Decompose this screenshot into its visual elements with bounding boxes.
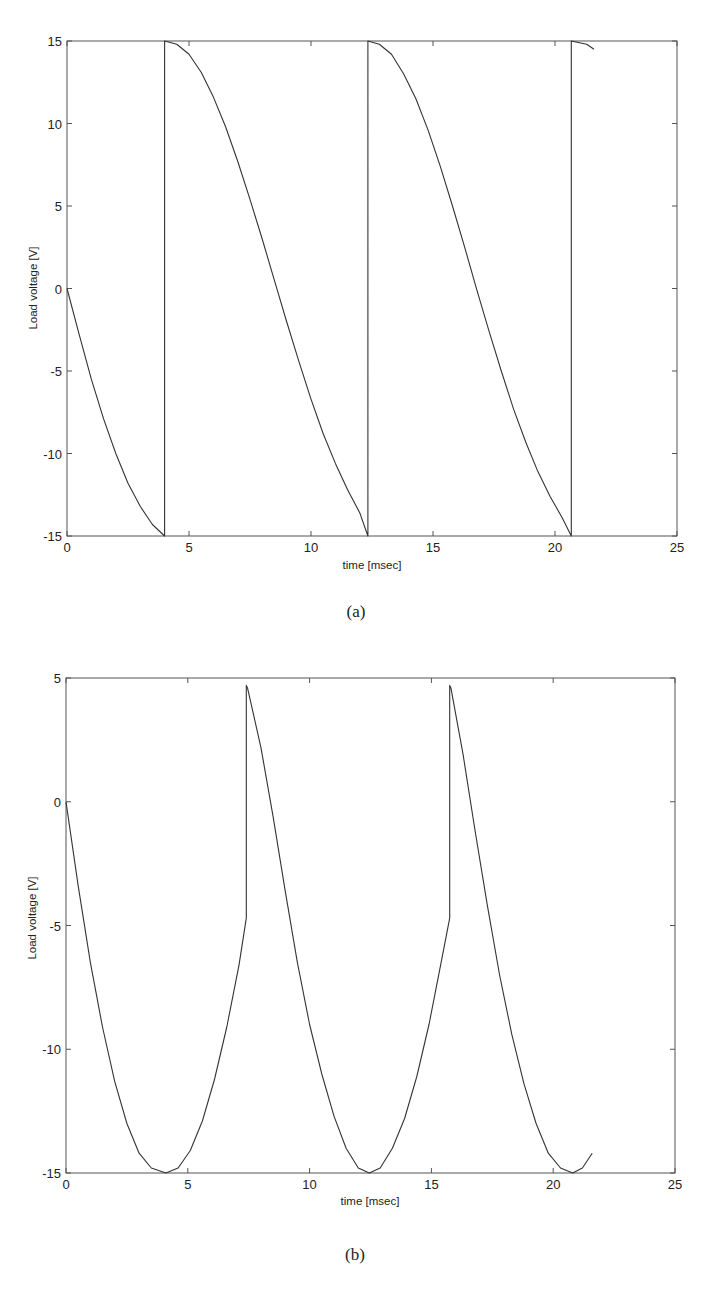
chart-a-series <box>67 41 594 536</box>
chart-b-x-tick-label: 25 <box>668 1177 682 1192</box>
chart-a-x-tick-label: 0 <box>63 540 70 555</box>
chart-a-y-tick-label: -5 <box>50 364 62 379</box>
chart-a-x-tick-label: 20 <box>548 540 562 555</box>
chart-b-y-tick-label: -5 <box>49 919 61 934</box>
chart-a-y-ticks: -15-10-5051015 <box>43 34 677 544</box>
chart-a-x-tick-label: 15 <box>426 540 440 555</box>
chart-a-y-tick-label: 5 <box>55 199 62 214</box>
chart-a-y-tick-label: 0 <box>55 282 62 297</box>
chart-b-y-ticks: -15-10-505 <box>42 671 675 1181</box>
chart-b-series <box>66 685 592 1173</box>
chart-a-x-tick-label: 10 <box>304 540 318 555</box>
chart-b-caption: (b) <box>345 1245 365 1264</box>
chart-a-series-line <box>67 41 594 536</box>
chart-a-x-tick-label: 5 <box>185 540 192 555</box>
chart-b-xlabel: time [msec] <box>341 1195 400 1207</box>
chart-a-x-ticks: 0510152025 <box>63 41 684 555</box>
chart-b-series-line <box>66 685 592 1173</box>
chart-b-x-ticks: 0510152025 <box>62 678 682 1192</box>
chart-b-axes-box <box>66 678 675 1173</box>
chart-b-y-tick-label: 0 <box>54 795 61 810</box>
chart-b: 0510152025 -15-10-505 time [msec] Load v… <box>26 671 682 1264</box>
chart-b-y-tick-label: -10 <box>42 1042 61 1057</box>
chart-b-ylabel: Load voltage [V] <box>26 876 38 959</box>
chart-b-x-tick-label: 20 <box>546 1177 560 1192</box>
chart-b-x-tick-label: 0 <box>62 1177 69 1192</box>
chart-b-x-tick-label: 5 <box>184 1177 191 1192</box>
chart-a: 0510152025 -15-10-5051015 time [msec] Lo… <box>27 34 684 621</box>
chart-a-axes-box <box>67 41 677 536</box>
chart-b-x-tick-label: 15 <box>424 1177 438 1192</box>
chart-a-y-tick-label: -15 <box>43 529 62 544</box>
chart-b-y-tick-label: -15 <box>42 1166 61 1181</box>
chart-a-xlabel: time [msec] <box>343 559 402 571</box>
chart-b-x-tick-label: 10 <box>302 1177 316 1192</box>
chart-a-ylabel: Load voltage [V] <box>27 246 39 329</box>
chart-a-y-tick-label: -10 <box>43 447 62 462</box>
chart-a-x-tick-label: 25 <box>670 540 684 555</box>
chart-a-caption: (a) <box>347 602 366 621</box>
figure: 0510152025 -15-10-5051015 time [msec] Lo… <box>0 0 709 1299</box>
chart-a-y-tick-label: 15 <box>48 34 62 49</box>
chart-b-y-tick-label: 5 <box>54 671 61 686</box>
chart-a-y-tick-label: 10 <box>48 117 62 132</box>
